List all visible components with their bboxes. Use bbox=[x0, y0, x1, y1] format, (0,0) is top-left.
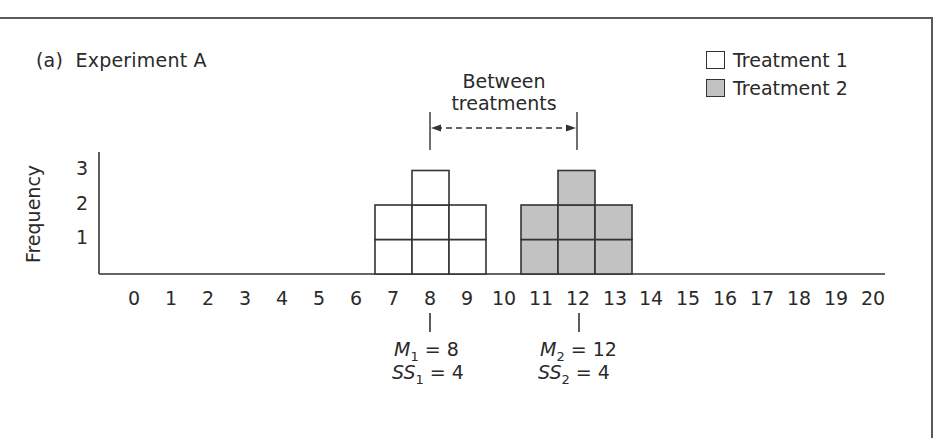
treatment-2-bars bbox=[521, 171, 632, 275]
x-tick: 13 bbox=[600, 287, 630, 309]
ss-value: = 4 bbox=[430, 361, 464, 383]
x-tick: 18 bbox=[784, 287, 814, 309]
x-tick: 4 bbox=[267, 287, 297, 309]
ss-symbol: SS bbox=[538, 361, 561, 383]
mean-value: = 12 bbox=[571, 338, 617, 360]
mean-symbol: M bbox=[394, 338, 410, 360]
ss-1-stat: SS1 = 4 bbox=[392, 361, 464, 387]
x-tick: 16 bbox=[710, 287, 740, 309]
x-tick: 10 bbox=[489, 287, 519, 309]
ss-value: = 4 bbox=[576, 361, 610, 383]
x-tick: 7 bbox=[378, 287, 408, 309]
x-tick: 17 bbox=[747, 287, 777, 309]
x-tick: 11 bbox=[526, 287, 556, 309]
x-tick: 5 bbox=[304, 287, 334, 309]
histogram-plot bbox=[0, 0, 935, 438]
x-tick: 3 bbox=[230, 287, 260, 309]
mean-value: = 8 bbox=[425, 338, 459, 360]
subscript: 2 bbox=[561, 372, 569, 387]
x-tick: 19 bbox=[821, 287, 851, 309]
arrow-right-head bbox=[566, 125, 576, 132]
x-tick: 9 bbox=[452, 287, 482, 309]
x-tick: 12 bbox=[563, 287, 593, 309]
subscript: 1 bbox=[415, 372, 423, 387]
arrow-left-head bbox=[431, 125, 441, 132]
x-tick: 0 bbox=[119, 287, 149, 309]
x-tick: 8 bbox=[415, 287, 445, 309]
x-tick: 15 bbox=[673, 287, 703, 309]
x-tick: 14 bbox=[636, 287, 666, 309]
x-tick: 6 bbox=[341, 287, 371, 309]
ss-symbol: SS bbox=[392, 361, 415, 383]
x-tick: 2 bbox=[193, 287, 223, 309]
between-treatments-arrow bbox=[430, 112, 577, 150]
x-tick: 20 bbox=[858, 287, 888, 309]
treatment-1-bars bbox=[375, 171, 486, 275]
ss-2-stat: SS2 = 4 bbox=[538, 361, 610, 387]
x-tick: 1 bbox=[156, 287, 186, 309]
mean-symbol: M bbox=[540, 338, 556, 360]
